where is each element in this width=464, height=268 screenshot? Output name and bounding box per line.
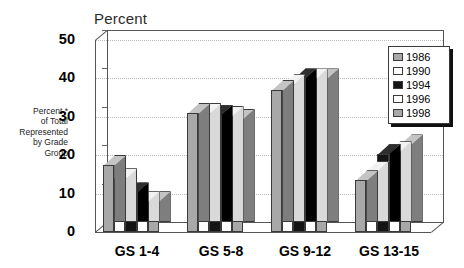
bar-side-face bbox=[400, 141, 412, 222]
bar-front-face bbox=[187, 113, 198, 232]
bar-front-face bbox=[355, 180, 366, 232]
y-tick-label-0: 0 bbox=[45, 223, 75, 239]
y-tick-label-50: 50 bbox=[45, 31, 75, 47]
plot-depth-edge-bottomright bbox=[431, 222, 444, 233]
y-tick-mark-30 bbox=[102, 107, 107, 108]
x-tick-label-gs-13-15: GS 13-15 bbox=[339, 243, 439, 259]
legend-label-1998: 1998 bbox=[406, 108, 430, 119]
legend-item-1994: 1994 bbox=[393, 78, 446, 92]
legend-label-1990: 1990 bbox=[406, 66, 430, 77]
y-tick-label-20: 20 bbox=[45, 146, 75, 162]
y-tick-30: 30 bbox=[43, 108, 75, 122]
bar-front-face bbox=[103, 165, 114, 232]
y-tick-label-30: 30 bbox=[45, 108, 75, 124]
bar-gs-5-8-1986 bbox=[187, 103, 210, 232]
y-tick-40: 40 bbox=[43, 69, 75, 83]
y-axis-line bbox=[95, 40, 96, 233]
y-tick-mark-50 bbox=[102, 30, 107, 31]
legend-item-1996: 1996 bbox=[393, 92, 446, 106]
legend-label-1994: 1994 bbox=[406, 80, 430, 91]
y-tick-10: 10 bbox=[43, 185, 75, 199]
y-tick-label-10: 10 bbox=[45, 185, 75, 201]
y-tick-mark-20 bbox=[102, 145, 107, 146]
legend-swatch-1996 bbox=[393, 95, 403, 103]
y-tick-label-40: 40 bbox=[45, 69, 75, 85]
legend-swatch-1994 bbox=[393, 81, 403, 89]
bar-side-face bbox=[316, 68, 328, 222]
bar-chart: Percent Percent * of Total Represented b… bbox=[0, 0, 464, 268]
bar-side-face bbox=[411, 134, 423, 222]
bar-side-face bbox=[389, 144, 401, 222]
y-tick-50: 50 bbox=[43, 31, 75, 45]
plot-top-edge bbox=[107, 30, 443, 31]
legend: 19861990199419961998 bbox=[388, 46, 450, 124]
bar-side-face bbox=[305, 68, 317, 222]
legend-label-1996: 1996 bbox=[406, 94, 430, 105]
bar-side-face bbox=[221, 105, 233, 222]
legend-item-1990: 1990 bbox=[393, 64, 446, 78]
gridline-50 bbox=[95, 40, 443, 42]
bar-gs-9-12-1986 bbox=[271, 80, 294, 232]
bar-side-face bbox=[232, 106, 244, 222]
plot-area: 01020304050 GS 1-4GS 5-8GS 9-12GS 13-15 bbox=[0, 0, 464, 268]
y-tick-mark-40 bbox=[102, 68, 107, 69]
bar-side-face bbox=[293, 74, 305, 222]
y-tick-20: 20 bbox=[43, 146, 75, 160]
bar-gs-1-4-1986 bbox=[103, 155, 126, 232]
bar-side-face bbox=[282, 80, 294, 222]
bar-side-face bbox=[327, 68, 339, 222]
bar-side-face bbox=[209, 103, 221, 222]
legend-item-1998: 1998 bbox=[393, 106, 446, 120]
legend-swatch-1998 bbox=[393, 109, 403, 117]
bar-side-face bbox=[198, 103, 210, 222]
y-tick-0: 0 bbox=[43, 223, 75, 237]
legend-swatch-1990 bbox=[393, 67, 403, 75]
bar-gs-13-15-1986 bbox=[355, 170, 378, 232]
legend-item-1986: 1986 bbox=[393, 50, 446, 64]
bar-front-face bbox=[271, 90, 282, 232]
legend-swatch-1986 bbox=[393, 53, 403, 61]
bar-side-face bbox=[243, 109, 255, 222]
bar-side-face bbox=[114, 155, 126, 222]
x-axis-line bbox=[95, 232, 431, 233]
legend-label-1986: 1986 bbox=[406, 52, 430, 63]
